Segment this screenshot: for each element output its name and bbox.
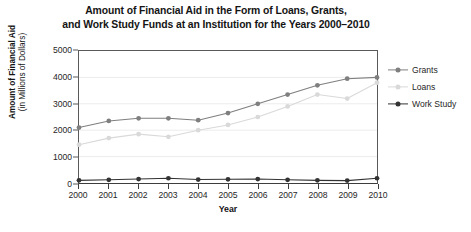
- series-line: [79, 77, 377, 127]
- x-axis-tick-label: 2008: [308, 190, 327, 200]
- data-point: [315, 83, 320, 88]
- data-point: [196, 118, 201, 123]
- data-point: [77, 142, 82, 147]
- data-point: [166, 176, 171, 181]
- x-axis-tick-mark: [198, 184, 199, 189]
- legend-marker-icon: [396, 67, 401, 72]
- y-axis-title: Amount of Financial Aid (in Millions of …: [8, 10, 28, 134]
- data-point: [136, 116, 141, 121]
- data-point: [106, 119, 111, 124]
- x-axis-tick-mark: [258, 184, 259, 189]
- legend-swatch: [388, 99, 408, 109]
- legend-label: Work Study: [412, 99, 456, 109]
- data-point: [375, 75, 380, 80]
- plot-area: [78, 50, 378, 184]
- data-point: [285, 92, 290, 97]
- x-axis-tick-label: 2001: [98, 190, 117, 200]
- y-axis-tick-label: 1000: [53, 152, 72, 162]
- x-axis-title: Year: [78, 204, 378, 214]
- x-axis-tick-mark: [78, 184, 79, 189]
- x-axis-tick-mark: [378, 184, 379, 189]
- data-point: [196, 128, 201, 133]
- data-point: [315, 178, 320, 183]
- y-axis-title-line-1: Amount of Financial Aid: [8, 10, 18, 134]
- y-axis-tick-label: 2000: [53, 125, 72, 135]
- legend-swatch: [388, 82, 408, 92]
- chart-title-line-2: and Work Study Funds at an Institution f…: [38, 18, 394, 32]
- data-point: [345, 76, 350, 81]
- x-axis-tick-mark: [138, 184, 139, 189]
- legend-label: Loans: [412, 82, 435, 92]
- chart-title: Amount of Financial Aid in the Form of L…: [38, 4, 394, 31]
- x-axis-tick-labels: 2000200120022003200420052006200720082009…: [78, 190, 378, 202]
- y-axis-tick-label: 4000: [53, 72, 72, 82]
- x-axis-tick-label: 2007: [278, 190, 297, 200]
- data-point: [166, 134, 171, 139]
- data-point: [375, 80, 380, 85]
- series-grants: [77, 75, 380, 130]
- y-axis-tick-labels: 010002000300040005000: [38, 50, 72, 184]
- x-axis-tick-mark: [228, 184, 229, 189]
- data-point: [196, 177, 201, 182]
- data-point: [375, 176, 380, 181]
- x-axis-tick-mark: [318, 184, 319, 189]
- x-axis-tick-marks: [78, 184, 378, 189]
- data-point: [255, 115, 260, 120]
- data-point: [166, 116, 171, 121]
- data-series-layer: [79, 51, 377, 183]
- data-point: [77, 178, 82, 183]
- data-point: [285, 104, 290, 109]
- x-axis-tick-label: 2005: [218, 190, 237, 200]
- x-axis-tick-label: 2003: [158, 190, 177, 200]
- y-axis-tick-label: 0: [67, 179, 72, 189]
- legend-item-work-study[interactable]: Work Study: [388, 95, 470, 112]
- data-point: [255, 101, 260, 106]
- x-axis-tick-mark: [288, 184, 289, 189]
- legend-marker-icon: [396, 84, 401, 89]
- chart-legend: GrantsLoansWork Study: [388, 61, 470, 112]
- data-point: [77, 125, 82, 130]
- x-axis-tick-label: 2006: [248, 190, 267, 200]
- data-point: [315, 92, 320, 97]
- y-axis-tick-label: 3000: [53, 99, 72, 109]
- financial-aid-line-chart: Amount of Financial Aid in the Form of L…: [0, 0, 471, 232]
- series-work-study: [77, 176, 380, 183]
- x-axis-tick-mark: [108, 184, 109, 189]
- y-axis-title-line-2: (in Millions of Dollars): [18, 10, 28, 134]
- data-point: [345, 178, 350, 183]
- y-axis-tick-label: 5000: [53, 45, 72, 55]
- data-point: [345, 96, 350, 101]
- x-axis-tick-label: 2004: [188, 190, 207, 200]
- data-point: [106, 136, 111, 141]
- legend-item-loans[interactable]: Loans: [388, 78, 470, 95]
- legend-swatch: [388, 65, 408, 75]
- data-point: [226, 177, 231, 182]
- x-axis-tick-label: 2002: [128, 190, 147, 200]
- x-axis-tick-mark: [168, 184, 169, 189]
- data-point: [136, 132, 141, 137]
- data-point: [226, 123, 231, 128]
- chart-title-line-1: Amount of Financial Aid in the Form of L…: [38, 4, 394, 18]
- data-point: [136, 177, 141, 182]
- data-point: [285, 177, 290, 182]
- x-axis-tick-label: 2010: [368, 190, 387, 200]
- data-point: [226, 111, 231, 116]
- legend-item-grants[interactable]: Grants: [388, 61, 470, 78]
- x-axis-tick-label: 2000: [68, 190, 87, 200]
- legend-marker-icon: [396, 101, 401, 106]
- data-point: [255, 177, 260, 182]
- legend-label: Grants: [412, 65, 438, 75]
- x-axis-tick-label: 2009: [338, 190, 357, 200]
- x-axis-tick-mark: [348, 184, 349, 189]
- data-point: [106, 177, 111, 182]
